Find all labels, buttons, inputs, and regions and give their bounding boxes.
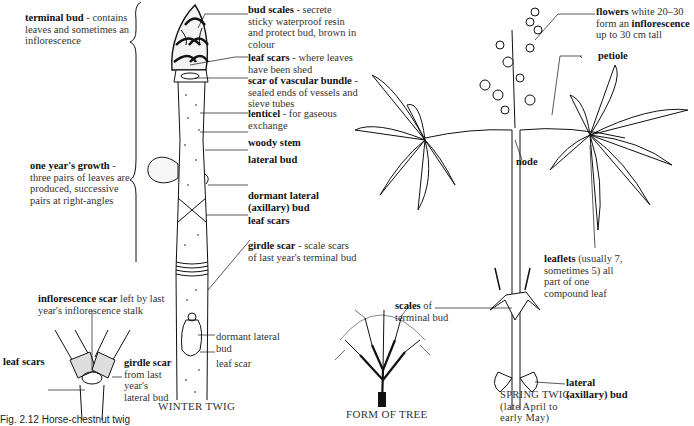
label-petiole: petiole bbox=[598, 50, 628, 62]
label-terminal-bud: terminal bud - contains leaves and somet… bbox=[25, 12, 135, 47]
terminal-bud-drawing bbox=[172, 5, 208, 82]
label-lenticel: lenticel - for gaseous exchange bbox=[248, 108, 358, 131]
label-girdle-scar-branch: girdle scar from last year's lateral bud bbox=[124, 357, 176, 403]
label-bud-scales: bud scales - secrete sticky waterproof r… bbox=[248, 4, 358, 50]
label-node: node bbox=[516, 156, 538, 168]
label-one-years-growth: one year's growth - three pairs of leave… bbox=[30, 160, 134, 206]
label-leaf-scars-top: leaf scars - where leaves have been shed bbox=[248, 52, 358, 75]
branch-detail-drawing bbox=[48, 310, 130, 420]
label-inflorescence-scar: inflorescence scar left by last year's i… bbox=[38, 293, 168, 316]
label-leaf-scar-low: leaf scar bbox=[216, 358, 251, 370]
label-leaf-scars-branch: leaf scars bbox=[3, 356, 45, 368]
caption-form-of-tree: FORM OF TREE bbox=[346, 408, 428, 420]
figure-caption: Fig. 2.12 Horse-chestnut twig bbox=[0, 414, 130, 425]
caption-spring-twig: SPRING TWIG (late April to early May) bbox=[500, 389, 570, 424]
label-dormant-lateral-bud: dormant lateral (axillary) bud bbox=[248, 190, 328, 213]
label-lateral-bud: lateral bud bbox=[248, 154, 297, 166]
label-leaflets: leaflets (usually 7, sometimes 5) all pa… bbox=[544, 253, 632, 299]
label-girdle-scar: girdle scar - scale scars of last year's… bbox=[248, 240, 358, 263]
label-lateral-axillary-bud: lateral (axillary) bud bbox=[566, 377, 636, 400]
lenticel-dots bbox=[184, 94, 200, 393]
label-woody-stem: woody stem bbox=[248, 137, 301, 149]
label-scales-terminal-bud: scales of terminal bud bbox=[395, 300, 465, 323]
label-flowers: flowers white 20–30 form an inflorescenc… bbox=[596, 6, 694, 41]
label-scar-vascular-bundle: scar of vascular bundle - sealed ends of… bbox=[248, 75, 358, 110]
lateral-bud-drawing bbox=[148, 157, 178, 183]
label-dormant-lateral-bud-low: dormant lateral bud bbox=[216, 331, 286, 354]
label-leaf-scars-mid: leaf scars bbox=[248, 215, 290, 227]
spring-twig-drawing bbox=[355, 8, 688, 410]
